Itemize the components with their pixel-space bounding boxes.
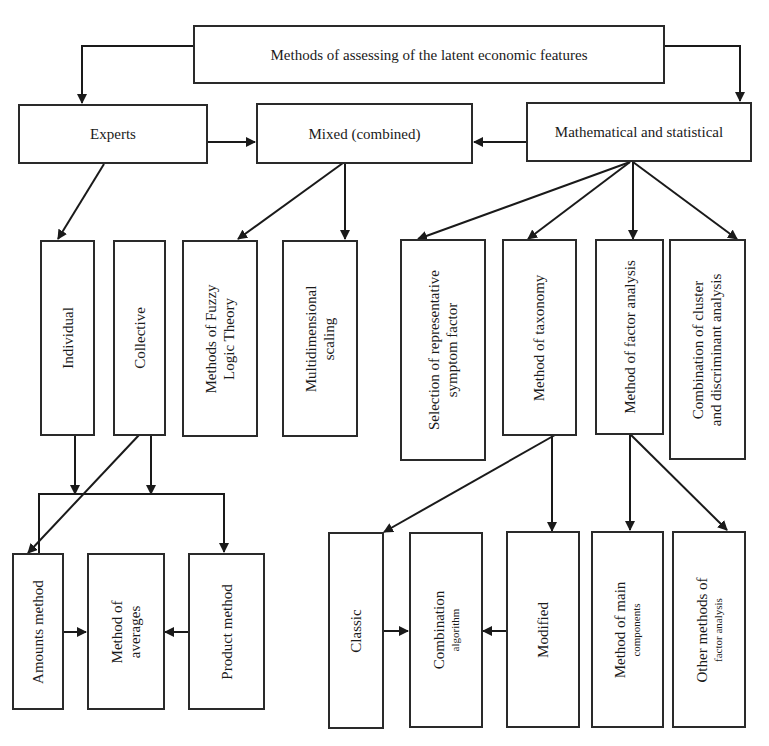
node-selection-label: Selection of representative symptom fact… — [425, 270, 461, 430]
arrow-root-to-experts — [82, 46, 193, 103]
node-combination: Combination algorithm — [409, 532, 483, 728]
node-fuzzy: Methods of Fuzzy Logic Theory — [182, 240, 258, 437]
node-averages-label: Method of averages — [108, 600, 144, 663]
node-product: Product method — [188, 553, 265, 710]
node-multidim-line2: scaling — [320, 317, 338, 360]
diagram-canvas: Methods of assessing of the latent econo… — [0, 0, 769, 746]
node-fuzzy-label: Methods of Fuzzy Logic Theory — [202, 284, 238, 393]
arrow-mixed-to-fuzzy — [238, 163, 343, 239]
node-factor-label: Method of factor analysis — [621, 260, 639, 414]
node-averages-line2: averages — [126, 605, 144, 657]
node-cluster-line1: Combination of cluster — [690, 280, 708, 418]
node-other-factor-line2: factor analysis — [711, 598, 725, 662]
arrow-math-to-selection — [418, 162, 630, 239]
node-selection-line2: symptom factor — [443, 303, 461, 398]
node-cluster-label: Combination of cluster and discriminant … — [690, 273, 726, 425]
arrow-root-to-math — [664, 46, 740, 101]
arrow-math-to-cluster — [633, 162, 737, 239]
node-modified-label: Modified — [534, 602, 552, 658]
node-math: Mathematical and statistical — [526, 102, 752, 162]
node-cluster-line2: and discriminant analysis — [708, 273, 726, 425]
node-combination-line2: algorithm — [448, 609, 462, 652]
node-root-label: Methods of assessing of the latent econo… — [271, 46, 588, 64]
node-multidim-label: Multidimensional scaling — [302, 285, 338, 392]
node-modified: Modified — [506, 531, 580, 728]
node-math-label: Mathematical and statistical — [555, 123, 723, 141]
node-averages: Method of averages — [87, 553, 165, 710]
node-taxonomy: Method of taxonomy — [502, 239, 577, 436]
node-classic: Classic — [328, 532, 384, 729]
node-experts-label: Experts — [90, 125, 136, 143]
node-other-factor-label: Other methods of factor analysis — [693, 577, 725, 682]
node-fuzzy-line1: Methods of Fuzzy — [202, 284, 220, 393]
node-other-factor: Other methods of factor analysis — [672, 531, 746, 728]
node-collective: Collective — [113, 240, 166, 436]
node-combination-line1: Combination — [430, 591, 448, 669]
node-mixed-label: Mixed (combined) — [308, 125, 420, 143]
node-classic-label: Classic — [347, 609, 365, 652]
node-taxonomy-label: Method of taxonomy — [531, 274, 549, 401]
node-individual: Individual — [40, 240, 95, 436]
node-selection-line1: Selection of representative — [425, 270, 443, 430]
node-combination-label: Combination algorithm — [430, 591, 462, 669]
node-amounts: Amounts method — [12, 553, 64, 710]
node-fuzzy-line2: Logic Theory — [220, 298, 238, 380]
node-main-components-label: Method of main components — [612, 581, 644, 678]
node-main-components: Method of main components — [591, 531, 664, 728]
node-selection: Selection of representative symptom fact… — [400, 239, 486, 461]
node-collective-label: Collective — [131, 307, 149, 369]
node-main-components-line2: components — [630, 603, 644, 656]
node-product-label: Product method — [218, 584, 236, 679]
node-experts: Experts — [18, 104, 208, 164]
node-main-components-line1: Method of main — [612, 581, 630, 678]
node-root: Methods of assessing of the latent econo… — [193, 25, 665, 84]
arrow-experts-to-individual — [58, 164, 104, 239]
bus-line — [39, 494, 224, 553]
node-multidim-line1: Multidimensional — [302, 285, 320, 392]
node-amounts-label: Amounts method — [29, 580, 47, 684]
node-cluster: Combination of cluster and discriminant … — [669, 239, 746, 460]
arrow-math-to-taxonomy — [528, 162, 630, 239]
node-multidim: Multidimensional scaling — [282, 240, 358, 437]
node-individual-label: Individual — [59, 307, 77, 369]
arrow-collective-to-amounts — [28, 435, 139, 553]
node-factor: Method of factor analysis — [595, 239, 664, 435]
node-other-factor-line1: Other methods of — [693, 577, 711, 682]
node-mixed: Mixed (combined) — [256, 103, 473, 164]
node-averages-line1: Method of — [108, 600, 126, 663]
